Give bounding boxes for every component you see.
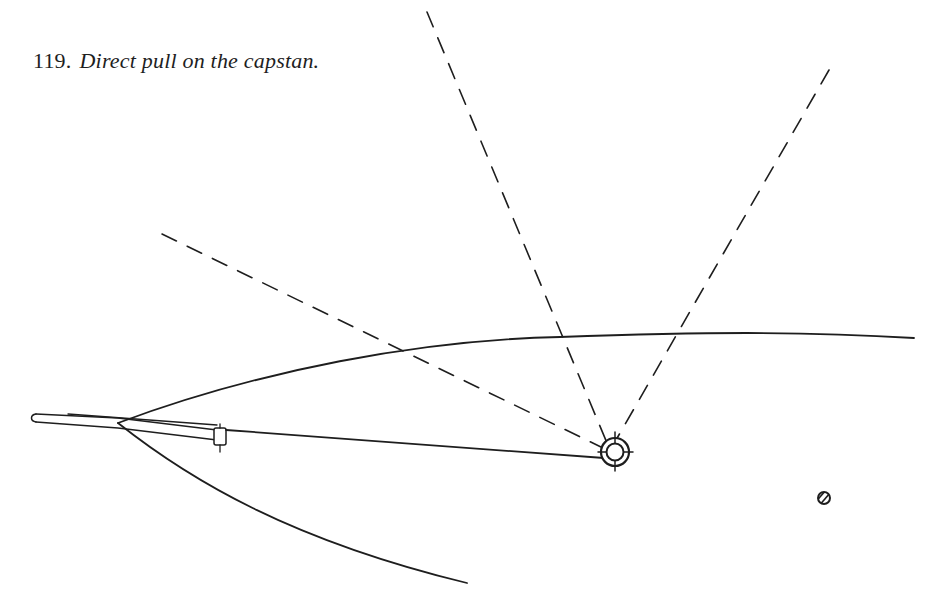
dashed-lead-right	[616, 70, 829, 440]
dashed-lead-left	[162, 234, 603, 448]
spar-fitting	[214, 424, 226, 452]
hatched-post-icon	[814, 490, 834, 510]
capstan-icon	[598, 432, 633, 471]
hull-lower-edge	[118, 423, 467, 583]
dashed-lead-upper	[427, 12, 607, 443]
pull-line	[226, 430, 604, 458]
hull-upper-edge	[118, 333, 914, 423]
capstan-diagram	[0, 0, 939, 607]
